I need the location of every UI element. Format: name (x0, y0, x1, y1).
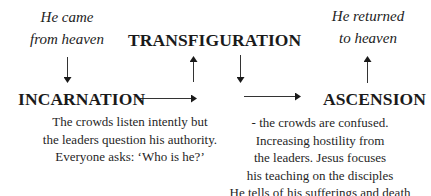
note-line: He returned (318, 5, 418, 27)
description-line: the leaders question his authority. (40, 131, 220, 149)
description-line: the leaders. Jesus focuses (225, 149, 415, 167)
note-returned-to-heaven: He returned to heaven (318, 5, 418, 49)
stage-ascension: ASCENSION (323, 89, 426, 110)
note-came-from-heaven: He came from heaven (17, 6, 117, 50)
description-before-transfiguration: The crowds listen intently but the leade… (40, 113, 220, 166)
stage-incarnation: INCARNATION (18, 89, 145, 110)
description-after-transfiguration: - the crowds are confused. Increasing ho… (225, 114, 415, 196)
description-line: The crowds listen intently but (40, 113, 220, 131)
description-line: Increasing hostility from (225, 132, 415, 150)
stage-transfiguration: TRANSFIGURATION (128, 30, 301, 51)
description-line: - the crowds are confused. (225, 114, 415, 132)
note-line: He came (17, 6, 117, 28)
description-line: He tells of his sufferings and death (225, 184, 415, 196)
description-line: his teaching on the disciples (225, 167, 415, 185)
note-line: from heaven (17, 28, 117, 50)
note-line: to heaven (318, 27, 418, 49)
description-line: Everyone asks: ‘Who is he?’ (40, 148, 220, 166)
